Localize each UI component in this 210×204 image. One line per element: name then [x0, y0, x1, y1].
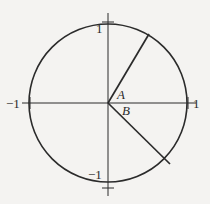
angle-label-a: A [117, 88, 125, 101]
y-axis-label-positive-one: 1 [96, 22, 103, 35]
y-axis-label-negative-one: −1 [88, 168, 102, 181]
figure-canvas [0, 0, 210, 204]
radius-b-line [108, 103, 170, 164]
angle-label-b: B [122, 104, 130, 117]
x-axis-label-positive-one: 1 [193, 97, 200, 110]
x-axis-label-negative-one: −1 [6, 97, 20, 110]
radius-a-line [108, 34, 149, 103]
unit-circle-figure: −1 1 1 −1 A B [0, 0, 210, 204]
